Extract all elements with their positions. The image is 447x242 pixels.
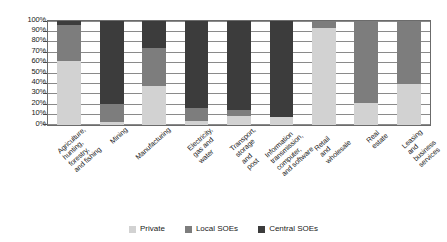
x-axis-category-labels: Agriculture, hunting, forestry, and fish…: [47, 124, 429, 208]
y-axis-tickmark: [43, 93, 47, 94]
chart-legend: PrivateLocal SOEsCentral SOEs: [0, 225, 447, 233]
y-axis-tickmark: [43, 73, 47, 74]
bar-segment-local-soes[interactable]: [185, 108, 209, 122]
y-axis-tickmark: [43, 31, 47, 32]
x-axis-category-label: Mining: [109, 126, 130, 146]
y-axis-tick-label: 100%: [28, 16, 46, 24]
y-axis-tickmark: [43, 114, 47, 115]
y-axis-tick-label: 70%: [32, 47, 46, 55]
bar-segment-central-soes[interactable]: [270, 21, 294, 118]
y-axis-tickmark: [43, 62, 47, 63]
stacked-bar[interactable]: [312, 21, 336, 125]
bar-slot: [48, 21, 90, 125]
y-axis-tick-label: 60%: [32, 57, 46, 65]
stacked-bar[interactable]: [57, 21, 81, 125]
stacked-bar[interactable]: [397, 21, 421, 125]
y-axis-tickmark: [43, 104, 47, 105]
bar-slot: [303, 21, 345, 125]
x-axis-category-label: Real estate: [365, 126, 390, 151]
legend-item[interactable]: Private: [129, 225, 165, 233]
plot-area: [47, 20, 431, 126]
legend-label: Private: [140, 225, 165, 233]
bar-slot: [90, 21, 132, 125]
x-axis-category-label: Manufacturing: [134, 126, 173, 162]
bar-segment-central-soes[interactable]: [100, 21, 124, 104]
legend-label: Central SOEs: [269, 225, 318, 233]
legend-swatch-icon: [258, 226, 265, 233]
bar-segment-private[interactable]: [57, 61, 81, 124]
bar-segment-central-soes[interactable]: [142, 21, 166, 48]
y-axis-tick-label: 40%: [32, 78, 46, 86]
legend-swatch-icon: [129, 226, 136, 233]
bar-segment-central-soes[interactable]: [227, 21, 251, 110]
x-axis-category-label: Leasing and business services: [401, 126, 444, 169]
bar-segment-private[interactable]: [312, 28, 336, 125]
plot-wrapper: 100%90%80%70%60%50%40%30%20%10%0% Agricu…: [0, 0, 447, 242]
x-axis-category-label: Retail and wholesale: [313, 126, 353, 166]
bar-slot: [218, 21, 260, 125]
legend-item[interactable]: Local SOEs: [185, 225, 238, 233]
y-axis-tick-label: 50%: [32, 68, 46, 76]
x-axis-category-label: Information transmission, computer, and …: [264, 126, 317, 178]
y-axis-tick-label: 90%: [32, 26, 46, 34]
y-axis-tick-label: 30%: [32, 89, 46, 97]
bar-slot: [345, 21, 387, 125]
y-axis-tick-labels: 100%90%80%70%60%50%40%30%20%10%0%: [8, 16, 46, 126]
stacked-bar[interactable]: [270, 21, 294, 125]
x-axis-category-label: Electricity, gas and water: [186, 126, 226, 165]
bar-segment-local-soes[interactable]: [142, 48, 166, 86]
legend-swatch-icon: [185, 226, 192, 233]
bar-segment-private[interactable]: [354, 103, 378, 125]
stacked-bar-chart: 100%90%80%70%60%50%40%30%20%10%0% Agricu…: [0, 0, 447, 242]
bar-segment-local-soes[interactable]: [57, 25, 81, 61]
stacked-bar[interactable]: [185, 21, 209, 125]
bar-slot: [260, 21, 302, 125]
x-axis-category-label: Agriculture, hunting, forestry, and fish…: [56, 126, 105, 175]
y-axis-tick-label: 20%: [32, 99, 46, 107]
y-axis-tickmark: [43, 52, 47, 53]
bar-slot: [175, 21, 217, 125]
stacked-bar[interactable]: [354, 21, 378, 125]
y-axis-tickmark: [43, 21, 47, 22]
y-axis-tickmark: [43, 41, 47, 42]
stacked-bar[interactable]: [100, 21, 124, 125]
legend-label: Local SOEs: [196, 225, 238, 233]
bar-segment-private[interactable]: [142, 86, 166, 124]
legend-item[interactable]: Central SOEs: [258, 225, 318, 233]
y-axis-tickmark: [43, 83, 47, 84]
bar-segment-local-soes[interactable]: [312, 21, 336, 28]
bars-layer: [48, 21, 430, 125]
bar-segment-central-soes[interactable]: [185, 21, 209, 108]
bar-segment-private[interactable]: [397, 84, 421, 125]
stacked-bar[interactable]: [227, 21, 251, 125]
bar-segment-local-soes[interactable]: [354, 21, 378, 103]
bar-segment-local-soes[interactable]: [397, 21, 421, 84]
bar-slot: [388, 21, 430, 125]
y-axis-tick-label: 10%: [32, 109, 46, 117]
bar-slot: [133, 21, 175, 125]
stacked-bar[interactable]: [142, 21, 166, 125]
bar-segment-local-soes[interactable]: [100, 104, 124, 123]
y-axis-tick-label: 80%: [32, 37, 46, 45]
